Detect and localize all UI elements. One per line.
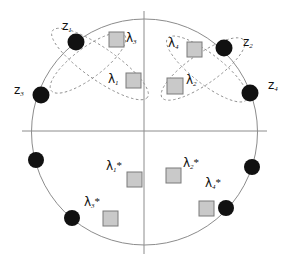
lambda-square-lam4 (187, 42, 202, 57)
eigenvalue-dot-z3 (33, 87, 50, 104)
eigenvalue-dot-d7 (244, 159, 260, 175)
label-lambda1-star: λ1* (106, 160, 122, 174)
label-lambda3-star: λ3* (84, 196, 100, 210)
eigenvalue-dot-z2 (216, 40, 233, 57)
lambda-square-lam2 (167, 78, 183, 94)
eigenvalue-dot-z1 (68, 34, 85, 51)
eigenvalue-dot-z4 (242, 85, 259, 102)
label-lambda2-star: λ2* (183, 157, 199, 171)
label-lambda4: λ4 (168, 37, 179, 51)
lambda-square-lam4star (199, 201, 214, 216)
label-z4: z4 (268, 79, 278, 93)
eigenvalue-dot-d6 (64, 210, 80, 226)
label-lambda3: λ3 (126, 32, 137, 46)
label-lambda4-star: λ4* (205, 177, 221, 191)
lambda-square-lam3star (103, 211, 118, 226)
label-z3: z3 (14, 84, 24, 98)
label-lambda1: λ1 (108, 73, 119, 87)
label-z1: z1 (62, 20, 72, 34)
lambda-square-lam3 (109, 32, 124, 47)
label-lambda2: λ2 (186, 74, 197, 88)
eigenvalue-dot-d8 (218, 200, 234, 216)
label-z2: z2 (243, 36, 253, 50)
lambda-square-lam1 (126, 73, 141, 88)
figure-canvas: z1 z2 z3 z4 λ1 λ2 λ3 λ4 λ1* λ2* λ3* λ4* (0, 0, 290, 263)
lambda-square-lam1star (127, 172, 142, 187)
lambda-square-lam2star (166, 168, 181, 183)
dashed-ellipse-left-ellipse-a (43, 18, 156, 111)
eigenvalue-dot-d5 (28, 152, 44, 168)
